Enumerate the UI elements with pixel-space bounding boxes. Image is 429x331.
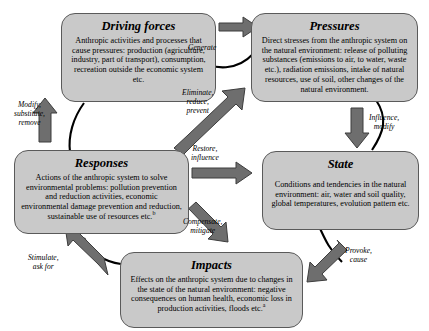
node-impacts-footnote-marker: a: [263, 302, 266, 308]
edge-label-influence-line1: Influence,: [369, 113, 399, 122]
edge-label-generate-line1: Generate: [188, 43, 216, 52]
node-impacts[interactable]: Impacts Effects on the anthropic system …: [120, 252, 303, 328]
node-pressures-title: Pressures: [256, 19, 413, 34]
edge-label-restore-line1: Restore,: [191, 144, 219, 153]
dpsir-diagram: Driving forces Anthropic activities and …: [0, 0, 429, 331]
edge-label-stimulate-line1: Stimulate,: [28, 253, 59, 262]
node-responses-footnote-marker: b: [152, 210, 155, 216]
edge-label-provoke-line1: Provoke,: [345, 246, 372, 255]
edge-label-eliminate-line2: reduce,: [182, 97, 213, 106]
edge-label-eliminate-reduce-prevent: Eliminate, reduce, prevent: [182, 88, 213, 116]
edge-label-modify-substitute-remove: Modify, substitute, remove: [14, 100, 45, 128]
node-responses[interactable]: Responses Actions of the anthropic syste…: [14, 150, 189, 234]
edge-label-compensate-line2: mitigate: [183, 226, 222, 235]
edge-label-stimulate-ask-for: Stimulate, ask for: [28, 253, 59, 271]
connector-responses-to-driving: [70, 103, 84, 152]
edge-label-eliminate-line3: prevent: [182, 106, 213, 115]
node-responses-body-text: Actions of the anthropic system to solve…: [21, 173, 182, 221]
node-responses-body: Actions of the anthropic system to solve…: [19, 173, 184, 222]
edge-label-modify-line2: substitute,: [14, 109, 45, 118]
node-pressures[interactable]: Pressures Direct stresses from the anthr…: [251, 13, 418, 102]
edge-label-compensate-mitigate: Compensate, mitigate: [183, 217, 222, 235]
edge-label-restore-line2: influence: [191, 153, 219, 162]
edge-label-provoke-cause: Provoke, cause: [345, 246, 372, 264]
node-impacts-title: Impacts: [125, 258, 298, 273]
node-responses-title: Responses: [19, 156, 184, 171]
edge-label-generate: Generate: [188, 43, 216, 52]
node-state-body: Conditions and tendencies in the natural…: [267, 174, 414, 209]
edge-label-modify-line3: remove: [14, 118, 45, 127]
node-pressures-body: Direct stresses from the anthropic syste…: [256, 36, 413, 94]
edge-label-compensate-line1: Compensate,: [183, 217, 222, 226]
arrow-influence-modify: [345, 108, 369, 148]
edge-label-influence-modify: Influence, modify: [369, 113, 399, 131]
edge-label-stimulate-line2: ask for: [28, 262, 59, 271]
node-impacts-body-text: Effects on the anthropic system due to c…: [130, 275, 292, 313]
edge-label-restore-influence: Restore, influence: [191, 144, 219, 162]
edge-label-modify-line1: Modify,: [14, 100, 45, 109]
node-impacts-body: Effects on the anthropic system due to c…: [125, 275, 298, 314]
edge-label-provoke-line2: cause: [345, 255, 372, 264]
node-driving-forces-title: Driving forces: [66, 19, 211, 34]
arrow-restore-influence: [192, 162, 252, 184]
node-state[interactable]: State Conditions and tendencies in the n…: [262, 151, 419, 230]
node-state-title: State: [267, 157, 414, 172]
edge-label-eliminate-line1: Eliminate,: [182, 88, 213, 97]
edge-label-influence-line2: modify: [369, 122, 399, 131]
